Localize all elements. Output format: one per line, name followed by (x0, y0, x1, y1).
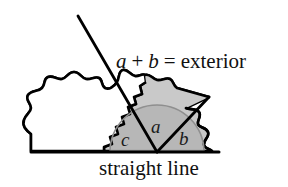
equation-equals: = (164, 49, 176, 73)
equation-term-b: b (148, 49, 159, 73)
equation-result: exterior (181, 49, 246, 73)
angle-label-a: a (151, 117, 161, 136)
angle-label-b: b (179, 129, 189, 148)
straight-line-caption: straight line (99, 158, 199, 179)
angle-label-c: c (121, 130, 129, 149)
exterior-angle-equation: a+b=exterior (116, 51, 246, 72)
equation-term-a: a (116, 49, 127, 73)
exterior-angle-figure: a+b=exterior c a b straight line (0, 0, 288, 187)
equation-plus: + (132, 49, 144, 73)
